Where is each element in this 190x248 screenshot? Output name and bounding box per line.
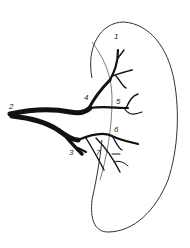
branch-upper-loop: [116, 76, 126, 88]
organ-outline: [91, 22, 178, 232]
label-3: 3: [69, 148, 74, 157]
branch-4: [88, 80, 110, 110]
label-5: 5: [116, 97, 121, 106]
branch-5: [90, 107, 128, 108]
label-7: 7: [96, 148, 101, 157]
label-4: 4: [84, 93, 89, 102]
label-1: 1: [114, 32, 118, 41]
label-6: 6: [114, 125, 119, 134]
main-vessel-2: [10, 108, 90, 114]
label-2: 2: [8, 102, 14, 111]
vascular-diagram: 1 2 3 4 5 6 7: [0, 0, 190, 248]
hilum-line: [92, 42, 112, 180]
branch-5-up: [126, 94, 138, 108]
